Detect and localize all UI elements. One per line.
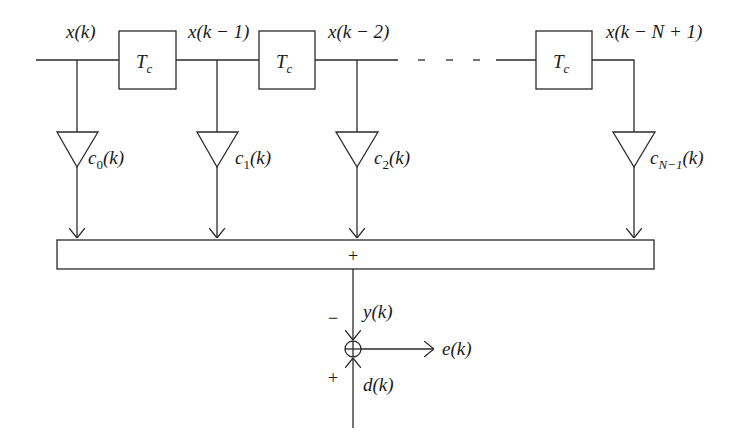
tap-0: c0(k) bbox=[57, 60, 124, 238]
delay-block-3: Tc bbox=[536, 31, 592, 89]
svg-text:c0(k): c0(k) bbox=[88, 147, 124, 172]
svg-text:+: + bbox=[348, 246, 358, 266]
desired-label: d(k) bbox=[363, 374, 394, 396]
summing-junction bbox=[345, 341, 361, 357]
svg-text:c1(k): c1(k) bbox=[235, 147, 271, 172]
output-path: y(k) − bbox=[328, 269, 393, 340]
svg-text:c2(k): c2(k) bbox=[374, 147, 410, 172]
output-label: y(k) bbox=[361, 301, 393, 323]
output-sign: − bbox=[328, 308, 338, 328]
tap-n-1: cN−1(k) bbox=[613, 132, 703, 238]
error-path: e(k) bbox=[361, 338, 472, 360]
gain-triangle-n-1 bbox=[613, 132, 655, 167]
desired-path: d(k) + bbox=[328, 358, 394, 428]
signal-label-x-k: x(k) bbox=[65, 21, 96, 43]
adaptive-filter-diagram: Tc Tc Tc x(k) x(k − 1) x(k − 2) x(k − N … bbox=[0, 0, 748, 448]
signal-label-x-k-1: x(k − 1) bbox=[187, 21, 249, 43]
gain-triangle-2 bbox=[336, 132, 378, 167]
error-label: e(k) bbox=[442, 338, 472, 360]
tap-2: c2(k) bbox=[336, 60, 410, 238]
adder-block: + bbox=[57, 240, 654, 269]
delay-block-2: Tc bbox=[259, 31, 315, 89]
svg-text:cN−1(k): cN−1(k) bbox=[650, 147, 703, 172]
delay-block-1: Tc bbox=[119, 31, 176, 89]
desired-sign: + bbox=[328, 368, 338, 388]
signal-label-x-k-n-1: x(k − N + 1) bbox=[605, 21, 702, 43]
gain-triangle-1 bbox=[197, 132, 238, 167]
signal-label-x-k-2: x(k − 2) bbox=[327, 21, 389, 43]
